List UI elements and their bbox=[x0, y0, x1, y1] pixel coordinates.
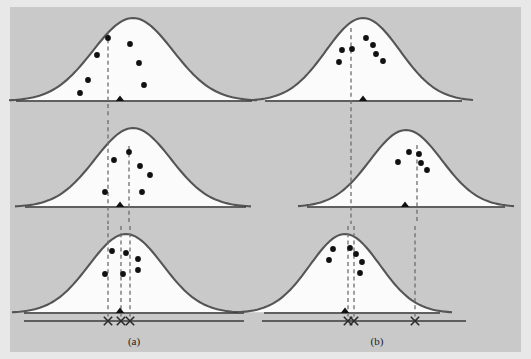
figure-container: (a)(b) bbox=[0, 0, 531, 359]
panel-a2 bbox=[15, 120, 251, 224]
sample-point-a1-5 bbox=[141, 82, 147, 88]
sample-point-b3-1 bbox=[347, 245, 353, 251]
sample-point-a2-4 bbox=[102, 189, 108, 195]
bell-curve-a2 bbox=[15, 128, 251, 206]
sample-point-b2-3 bbox=[418, 160, 424, 166]
sample-point-a1-4 bbox=[85, 77, 91, 83]
sample-point-a1-1 bbox=[127, 41, 133, 47]
sample-point-a2-0 bbox=[126, 149, 132, 155]
sample-point-b1-5 bbox=[336, 59, 342, 65]
sample-point-a3-5 bbox=[120, 271, 126, 277]
bell-curve-b2 bbox=[298, 130, 514, 206]
sample-point-b3-3 bbox=[326, 257, 332, 263]
column-label-a: (a) bbox=[128, 335, 141, 348]
panel-a1 bbox=[9, 18, 257, 118]
sample-point-b1-2 bbox=[339, 47, 345, 53]
panels-svg: (a)(b) bbox=[0, 0, 531, 359]
panel-b3 bbox=[238, 226, 466, 325]
panel-b1 bbox=[253, 18, 473, 118]
sample-point-b1-1 bbox=[370, 42, 376, 48]
sample-point-a3-2 bbox=[135, 256, 141, 262]
sample-point-a3-0 bbox=[109, 248, 115, 254]
sample-point-b1-4 bbox=[373, 51, 379, 57]
sample-point-b2-2 bbox=[395, 159, 401, 165]
bell-curve-a1 bbox=[9, 18, 257, 100]
sample-point-b1-0 bbox=[363, 35, 369, 41]
sample-point-b3-4 bbox=[359, 259, 365, 265]
sample-point-b2-4 bbox=[424, 167, 430, 173]
sample-point-a1-2 bbox=[94, 52, 100, 58]
sample-point-b2-0 bbox=[406, 149, 412, 155]
sample-point-a1-0 bbox=[105, 35, 111, 41]
sample-point-b1-6 bbox=[380, 58, 386, 64]
panel-b2 bbox=[298, 120, 514, 224]
sample-point-b3-5 bbox=[357, 270, 363, 276]
panel-a3 bbox=[12, 226, 244, 325]
bell-curve-b1 bbox=[253, 18, 473, 100]
bell-curve-b3 bbox=[238, 234, 452, 312]
sample-point-b3-2 bbox=[353, 251, 359, 257]
sample-point-a2-2 bbox=[137, 163, 143, 169]
sample-point-a2-3 bbox=[147, 172, 153, 178]
sample-point-a2-5 bbox=[139, 189, 145, 195]
sample-point-b3-0 bbox=[330, 246, 336, 252]
sample-point-b1-3 bbox=[349, 46, 355, 52]
sample-point-a3-3 bbox=[135, 267, 141, 273]
bell-curve-a3 bbox=[12, 234, 240, 312]
sample-point-a2-1 bbox=[111, 157, 117, 163]
sample-point-a3-4 bbox=[102, 271, 108, 277]
sample-point-a3-1 bbox=[123, 250, 129, 256]
column-label-b: (b) bbox=[371, 335, 384, 348]
sample-point-a1-6 bbox=[77, 90, 83, 96]
sample-point-b2-1 bbox=[416, 151, 422, 157]
sample-point-a1-3 bbox=[136, 60, 142, 66]
